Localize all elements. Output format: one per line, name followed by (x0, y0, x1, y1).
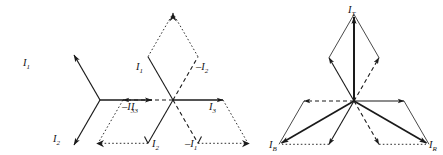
construction-br-a (223, 100, 248, 143)
resultant-d2-bottom-left-arrowhead (96, 140, 104, 147)
label-d2-I1: I1 (135, 61, 143, 75)
vector-d2-I1 (148, 57, 173, 100)
vector-I1 (74, 55, 100, 100)
construction-d3-top-left (329, 14, 354, 57)
construction-d3-top-right (354, 14, 379, 57)
construction-bl-a (98, 100, 123, 143)
vector-d2-neg-I2 (173, 57, 198, 100)
vector-d2-I2 (148, 100, 173, 143)
label-d2-I2: I2 (151, 138, 160, 152)
label-d3-IB: IB (268, 139, 278, 153)
vector-d3-upper-left (329, 58, 354, 101)
phasor-diagrams-svg: I1 I2 I3 I1 –I2 –I3 I3 I2 –I1 IT (0, 0, 443, 155)
label-d3-IT: IT (347, 4, 357, 18)
phasor-figure: I1 I2 I3 I1 –I2 –I3 I3 I2 –I1 IT (0, 0, 443, 155)
label-d2-I3: I3 (208, 101, 217, 115)
tick-d2-right (198, 137, 202, 144)
resultant-d2-bottom-right-arrowhead (242, 140, 250, 147)
vector-I2 (74, 100, 100, 145)
label-d2-neg-I1: –I1 (184, 138, 197, 152)
label-d1-I2: I2 (52, 133, 61, 147)
vector-d2-neg-I1 (173, 100, 198, 143)
label-d1-I1: I1 (22, 57, 30, 71)
construction-top-right (173, 13, 198, 56)
label-d3-IR: IR (428, 139, 438, 153)
resultant-IB (282, 101, 355, 143)
resultant-IR (354, 101, 427, 143)
diagram-3-group (279, 14, 429, 144)
label-d2-neg-I2: –I2 (195, 61, 209, 75)
vector-d3-upper-right (354, 58, 379, 101)
tick-d2-left (145, 137, 149, 144)
construction-top-left (148, 13, 173, 56)
diagram-2-group (96, 13, 250, 148)
